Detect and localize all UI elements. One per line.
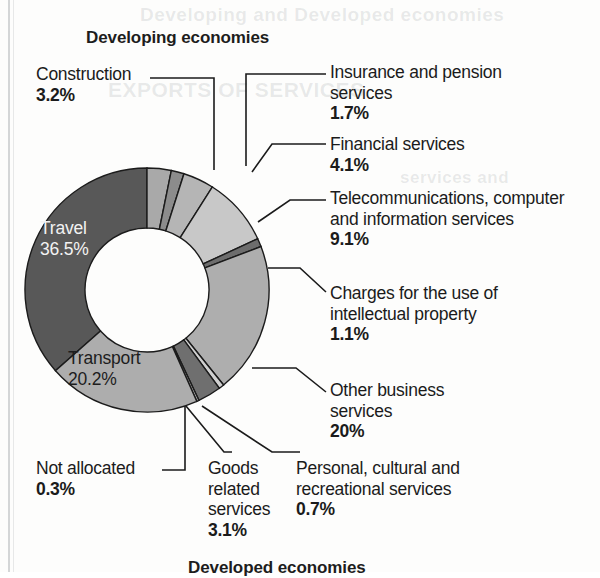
callout-personal-pct: 0.7% xyxy=(296,499,481,520)
donut-slices xyxy=(25,168,269,412)
callout-not-allocated: Not allocated 0.3% xyxy=(36,458,201,499)
slice-label-travel-name: Travel xyxy=(40,218,89,239)
callout-not-allocated-name: Not allocated xyxy=(36,458,201,479)
callout-personal-name: Personal, cultural and recreational serv… xyxy=(296,458,481,499)
callout-construction: Construction 3.2% xyxy=(36,64,186,105)
leader-line-goods xyxy=(186,406,232,452)
callout-insurance: Insurance and pension services 1.7% xyxy=(330,62,505,124)
callout-goods: Goods related services 3.1% xyxy=(208,458,293,540)
slice-label-travel: Travel 36.5% xyxy=(40,218,89,260)
callout-charges: Charges for the use of intellectual prop… xyxy=(330,283,515,345)
callout-goods-pct: 3.1% xyxy=(208,520,293,541)
leader-line-personal xyxy=(202,406,300,452)
callout-goods-name: Goods related services xyxy=(208,458,293,520)
callout-other-business: Other business services 20% xyxy=(330,380,505,442)
callout-charges-pct: 1.1% xyxy=(330,324,515,345)
callout-other-business-name: Other business services xyxy=(330,380,505,421)
callout-insurance-pct: 1.7% xyxy=(330,103,505,124)
callout-financial-pct: 4.1% xyxy=(330,155,525,176)
callout-telecom-name: Telecommunications, computer and informa… xyxy=(330,188,570,229)
callout-other-business-pct: 20% xyxy=(330,421,505,442)
leader-line-charges xyxy=(268,268,326,292)
slice-label-transport-pct: 20.2% xyxy=(68,369,140,390)
leader-line-insurance xyxy=(246,74,326,166)
slice-label-transport-name: Transport xyxy=(68,348,140,369)
leader-line-telecom xyxy=(258,200,326,222)
callout-telecom-pct: 9.1% xyxy=(330,229,570,250)
callout-personal: Personal, cultural and recreational serv… xyxy=(296,458,481,520)
leader-line-financial xyxy=(252,144,326,172)
callout-financial-name: Financial services xyxy=(330,134,525,155)
donut-slice xyxy=(25,168,147,371)
callout-construction-name: Construction xyxy=(36,64,186,85)
callout-construction-pct: 3.2% xyxy=(36,85,186,106)
slice-label-travel-pct: 36.5% xyxy=(40,239,89,260)
callout-telecom: Telecommunications, computer and informa… xyxy=(330,188,570,250)
leader-line-other-business xyxy=(252,368,326,392)
callout-insurance-name: Insurance and pension services xyxy=(330,62,505,103)
chart-subtitle-bottom: Developed economies xyxy=(188,558,366,578)
callout-charges-name: Charges for the use of intellectual prop… xyxy=(330,283,515,324)
slice-label-transport: Transport 20.2% xyxy=(68,348,140,390)
callout-financial: Financial services 4.1% xyxy=(330,134,525,175)
callout-not-allocated-pct: 0.3% xyxy=(36,479,201,500)
